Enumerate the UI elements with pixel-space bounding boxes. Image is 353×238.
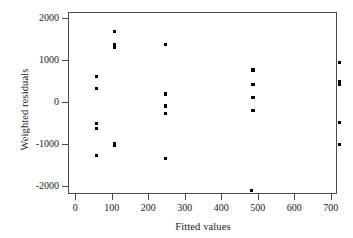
y-tick-mark (62, 144, 68, 145)
data-point (164, 104, 167, 107)
data-point (164, 43, 167, 46)
data-point (113, 30, 116, 33)
x-tick-label: 0 (55, 203, 95, 213)
x-tick-label: 100 (92, 203, 132, 213)
x-tick-label: 400 (201, 203, 241, 213)
data-point (338, 83, 341, 86)
x-tick-mark (331, 194, 332, 200)
data-point (113, 46, 116, 49)
y-tick-label: 0 (0, 97, 59, 107)
data-point (95, 75, 98, 78)
y-tick-label: 1000 (0, 55, 59, 65)
data-point (338, 61, 341, 64)
x-tick-mark (258, 194, 259, 200)
x-tick-mark (75, 194, 76, 200)
y-tick-label: -1000 (0, 139, 59, 149)
x-tick-mark (148, 194, 149, 200)
x-tick-mark (112, 194, 113, 200)
x-tick-mark (294, 194, 295, 200)
data-point (95, 127, 98, 130)
data-point (251, 68, 254, 71)
data-point (338, 121, 341, 124)
x-tick-label: 500 (238, 203, 278, 213)
x-axis-title: Fitted values (68, 221, 338, 232)
scatter-plot-figure: Weighted residuals Fitted values 2000100… (0, 0, 353, 238)
x-tick-label: 600 (274, 203, 314, 213)
data-point (95, 87, 98, 90)
data-point (251, 83, 254, 86)
x-tick-label: 700 (311, 203, 351, 213)
x-tick-label: 200 (128, 203, 168, 213)
x-tick-mark (221, 194, 222, 200)
x-tick-label: 300 (165, 203, 205, 213)
data-point (164, 92, 167, 95)
data-point (250, 189, 253, 192)
data-point (164, 112, 167, 115)
data-point (95, 122, 98, 125)
data-point (251, 109, 254, 112)
y-tick-label: 2000 (0, 13, 59, 23)
y-tick-mark (62, 102, 68, 103)
data-point (251, 96, 254, 99)
y-tick-mark (62, 186, 68, 187)
y-tick-mark (62, 60, 68, 61)
y-tick-label: -2000 (0, 181, 59, 191)
data-point (95, 154, 98, 157)
plot-area (68, 12, 337, 194)
data-point (164, 157, 167, 160)
data-point (338, 143, 341, 146)
data-point (113, 144, 116, 147)
x-tick-mark (185, 194, 186, 200)
y-tick-mark (62, 18, 68, 19)
